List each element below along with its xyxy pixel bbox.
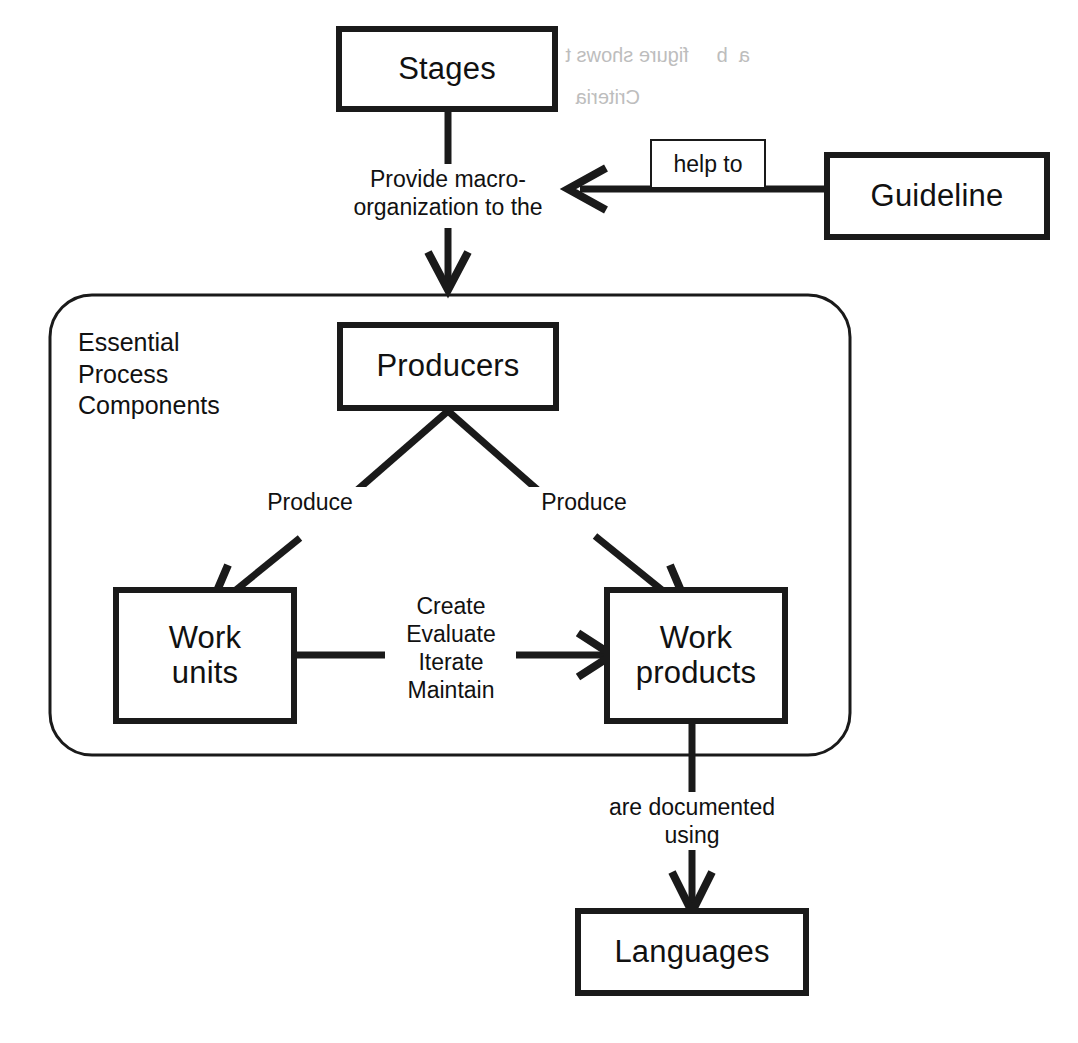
- node-work-units-label: Work units: [169, 621, 242, 690]
- edge-label-produce-left: Produce: [254, 487, 366, 517]
- edge-label-box-help-to: help to: [650, 139, 766, 189]
- node-languages[interactable]: Languages: [575, 908, 809, 996]
- node-guideline-label: Guideline: [871, 179, 1004, 214]
- group-caption-essential-process-components: Essential Process Components: [78, 327, 308, 422]
- node-work-units[interactable]: Work units: [113, 587, 297, 724]
- node-work-products-label: Work products: [636, 621, 757, 690]
- edge-label-create-evaluate-iterate-maintain: Create Evaluate Iterate Maintain: [389, 591, 513, 705]
- process-diagram: a b figure shows t Criteria: [0, 0, 1078, 1043]
- node-work-products[interactable]: Work products: [604, 587, 788, 724]
- node-stages-label: Stages: [398, 52, 496, 87]
- node-stages[interactable]: Stages: [336, 26, 558, 112]
- node-guideline[interactable]: Guideline: [824, 152, 1050, 240]
- node-languages-label: Languages: [614, 935, 769, 970]
- edge-label-provide-macro-organization: Provide macro- organization to the: [342, 164, 554, 222]
- node-producers-label: Producers: [376, 349, 519, 384]
- edge-label-help-to-text: help to: [673, 151, 742, 178]
- node-producers[interactable]: Producers: [337, 322, 559, 411]
- edge-label-are-documented-using: are documented using: [594, 792, 790, 850]
- edge-label-produce-right: Produce: [528, 487, 640, 517]
